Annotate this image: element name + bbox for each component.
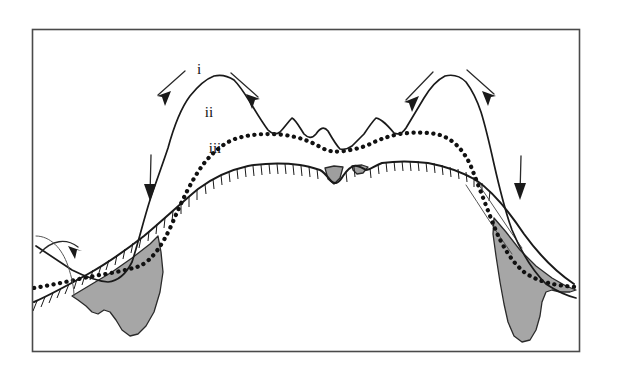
- label-ii: ii: [205, 104, 213, 120]
- label-i: i: [197, 61, 201, 77]
- cross-section-diagram: i ii iii: [0, 0, 619, 375]
- label-iii: iii: [209, 140, 222, 156]
- figure-root: i ii iii: [0, 0, 619, 375]
